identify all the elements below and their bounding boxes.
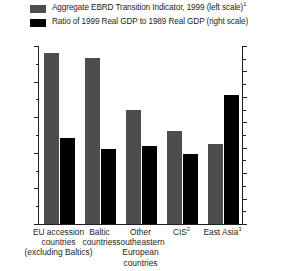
plot-area: 1.01.52.02.53.03.5 00.51.01.52.02.53.03.… [38,46,243,224]
y-axis-left-minor-tick [36,99,39,100]
y-axis-right-minor-tick [243,84,246,85]
y-axis-right-major-tick [243,97,247,98]
bar-transition-indicator [167,131,182,224]
y-axis-right-major-tick [243,148,247,149]
y-axis-left-minor-tick [36,171,39,172]
y-axis-left-minor-tick [36,64,39,65]
legend-label-transition-indicator: Aggregate EBRD Transition Indicator, 199… [52,3,246,13]
category-footnote-marker: 3 [238,226,241,232]
y-axis-right-minor-tick [243,59,246,60]
category-label-line: European [102,247,180,257]
category-label-line: countries [102,258,180,268]
x-axis-category-label: East Asia3 [184,227,262,237]
legend-swatch-gray-icon [30,5,46,13]
y-axis-right-major-tick [243,199,247,200]
bar-transition-indicator [85,58,100,224]
chart-legend: Aggregate EBRD Transition Indicator, 199… [30,3,286,31]
legend-footnote-marker-1: 1 [243,1,246,7]
legend-label-text-2: Ratio of 1999 Real GDP to 1989 Real GDP … [52,17,248,26]
y-axis-left-minor-tick [36,135,39,136]
y-axis-left-major-tick [34,117,38,118]
y-axis-right-major-tick [243,173,247,174]
legend-item-gdp-ratio: Ratio of 1999 Real GDP to 1989 Real GDP … [30,17,286,28]
y-axis-left [38,46,39,224]
bar-gdp-ratio [60,138,75,224]
y-axis-left-major-tick [34,153,38,154]
bar-gdp-ratio [142,146,157,224]
legend-item-transition-indicator: Aggregate EBRD Transition Indicator, 199… [30,3,286,14]
category-label-line: East Asia3 [184,227,262,237]
bar-gdp-ratio [224,95,239,224]
y-axis-left-major-tick [34,224,38,225]
legend-label-gdp-ratio: Ratio of 1999 Real GDP to 1989 Real GDP … [52,17,248,27]
y-axis-left-major-tick [34,46,38,47]
y-axis-left-major-tick [34,188,38,189]
y-axis-right-major-tick [243,46,247,47]
bar-group [126,46,157,224]
y-axis-right-minor-tick [243,160,246,161]
y-axis-left-major-tick [34,82,38,83]
bar-group [167,46,198,224]
y-axis-right-minor-tick [243,135,246,136]
category-label-line: (excluding Baltics) [20,247,98,257]
y-axis-right-major-tick [243,122,247,123]
y-axis-right-minor-tick [243,211,246,212]
y-axis-right-major-tick [243,224,247,225]
x-axis [38,224,243,225]
bar-transition-indicator [208,144,223,224]
category-label-line: southeastern [102,237,180,247]
y-axis-right-minor-tick [243,186,246,187]
bar-gdp-ratio [101,149,116,224]
chart-figure: Aggregate EBRD Transition Indicator, 199… [0,0,289,271]
legend-swatch-black-icon [30,19,46,27]
bar-transition-indicator [126,110,141,224]
bar-group [44,46,75,224]
bar-group [85,46,116,224]
y-axis-right-minor-tick [243,110,246,111]
legend-label-text-1: Aggregate EBRD Transition Indicator, 199… [52,3,243,12]
bar-transition-indicator [44,53,59,224]
y-axis-left-minor-tick [36,206,39,207]
bar-group [208,46,239,224]
bar-gdp-ratio [183,154,198,224]
y-axis-right-major-tick [243,71,247,72]
